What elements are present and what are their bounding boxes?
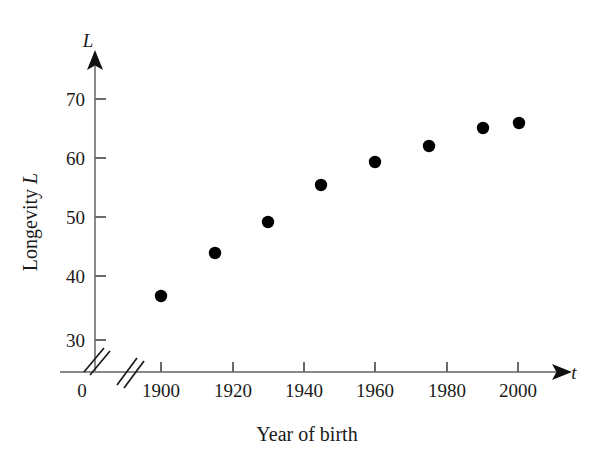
y-tick-label: 50: [66, 207, 85, 228]
data-point: [513, 117, 525, 129]
data-point: [477, 122, 489, 134]
x-tick-label: 2000: [499, 380, 537, 401]
x-axis-variable-label: t: [571, 362, 577, 383]
x-tick-label: 1980: [428, 380, 466, 401]
y-axis-variable-label: L: [82, 30, 94, 51]
x-tick-label: 1960: [356, 380, 394, 401]
x-tick-label: 1900: [142, 380, 180, 401]
y-tick-label: 70: [66, 89, 85, 110]
data-point: [209, 247, 221, 259]
data-point: [369, 156, 381, 168]
y-tick-label: 40: [66, 266, 85, 287]
data-points: [155, 117, 525, 302]
y-axis-title: Longevity L: [19, 173, 42, 271]
data-point: [262, 216, 274, 228]
origin-label: 0: [77, 380, 87, 401]
longevity-scatter-plot: 70 60 50 40 30 1900 1920 1940 1960 1980 …: [0, 0, 600, 463]
data-point: [155, 290, 167, 302]
data-point: [423, 140, 435, 152]
data-point: [315, 179, 327, 191]
x-axis-title: Year of birth: [256, 423, 357, 445]
x-tick-label: 1920: [214, 380, 252, 401]
x-tick-label: 1940: [285, 380, 323, 401]
y-axis-break-icon: [84, 348, 110, 375]
y-axis-ticks: [95, 99, 106, 340]
x-axis-ticks: [161, 362, 518, 372]
y-tick-label: 60: [66, 148, 85, 169]
chart-canvas: 70 60 50 40 30 1900 1920 1940 1960 1980 …: [0, 0, 600, 463]
y-tick-label: 30: [66, 330, 85, 351]
